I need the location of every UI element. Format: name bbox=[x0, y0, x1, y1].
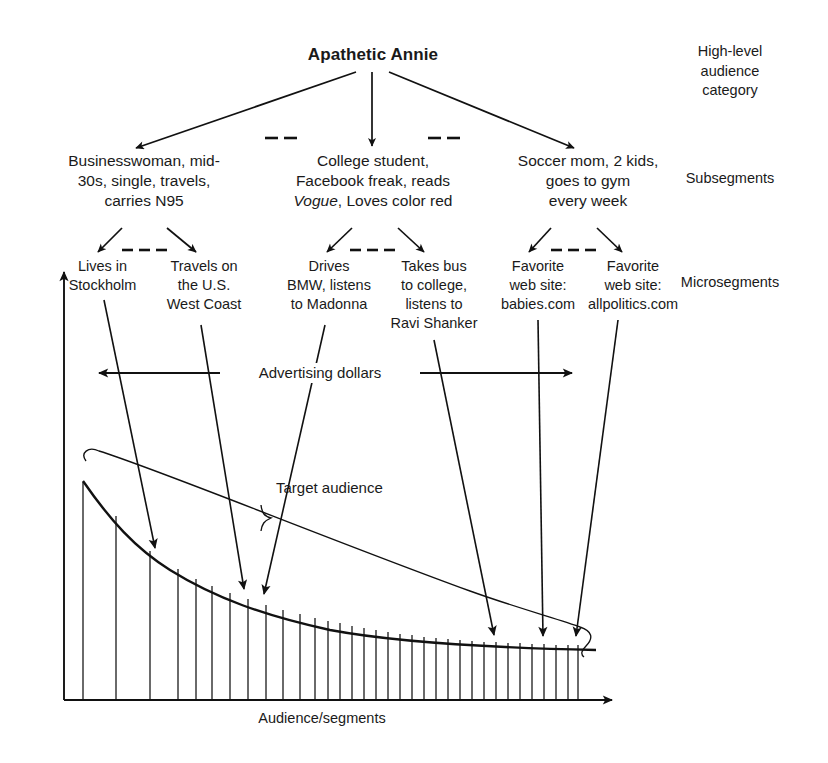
college-student-text-b: , Loves color red bbox=[338, 192, 453, 209]
microsegment-takes-bus-ravi-shanker: Takes bus to college, listens to Ravi Sh… bbox=[382, 257, 486, 332]
microsegment-favorite-allpolitics-com: Favorite web site: allpolitics.com bbox=[572, 257, 694, 314]
x-axis-label: Audience/segments bbox=[222, 709, 422, 728]
microsegment-to-curve-arrows bbox=[104, 300, 618, 636]
diagram-canvas: Apathetic Annie High-level audience cate… bbox=[0, 0, 828, 763]
page-title: Apathetic Annie bbox=[268, 44, 478, 66]
microsegment-drives-bmw-madonna: Drives BMW, listens to Madonna bbox=[277, 257, 381, 314]
subsegment-college-student: College student, Facebook freak, reads V… bbox=[278, 151, 468, 211]
root-to-subsegment-connectors bbox=[136, 72, 574, 148]
arrow-babies-to-curve bbox=[538, 320, 543, 636]
subsegment-to-microsegment-connectors bbox=[98, 228, 622, 252]
connector-root-businesswoman bbox=[136, 72, 356, 148]
long-tail-bars bbox=[83, 482, 578, 700]
target-audience-label: Target audience bbox=[276, 478, 436, 498]
side-category-high-level: High-level audience category bbox=[655, 42, 805, 101]
microsegment-travels-us-west-coast: Travels on the U.S. West Coast bbox=[152, 257, 256, 314]
subsegment-soccer-mom: Soccer mom, 2 kids, goes to gym every we… bbox=[497, 151, 679, 211]
connector-cs-bus bbox=[398, 228, 424, 252]
arrow-ravishanker-to-curve bbox=[434, 340, 494, 635]
connector-cs-bmw bbox=[327, 228, 352, 252]
connector-bw-westcoast bbox=[167, 228, 196, 252]
connector-bw-stockholm bbox=[98, 228, 122, 252]
long-tail-curve bbox=[83, 481, 596, 650]
subsegment-businesswoman: Businesswoman, mid- 30s, single, travels… bbox=[48, 151, 240, 211]
college-student-text-a: College student, Facebook freak, reads bbox=[296, 152, 450, 189]
college-student-text-vogue: Vogue bbox=[294, 192, 338, 209]
connector-root-soccer-mom bbox=[389, 72, 574, 148]
arrow-allpolitics-to-curve bbox=[576, 320, 618, 636]
connector-sm-allpolitics bbox=[597, 228, 622, 252]
target-audience-brace bbox=[261, 505, 271, 531]
microsegment-lives-in-stockholm: Lives in Stockholm bbox=[49, 257, 156, 295]
connector-sm-babies bbox=[529, 228, 551, 252]
advertising-dollars-label: Advertising dollars bbox=[222, 363, 418, 383]
arrow-stockholm-to-curve bbox=[104, 300, 155, 548]
